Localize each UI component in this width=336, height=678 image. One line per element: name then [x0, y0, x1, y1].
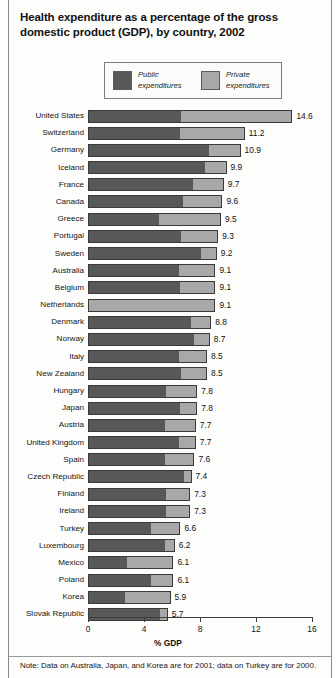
stacked-bar[interactable] [88, 402, 197, 415]
bar-segment-public [89, 454, 165, 465]
country-label: Korea [0, 590, 84, 604]
bar-value-label: 6.1 [177, 574, 189, 588]
bar-segment-public [89, 609, 160, 620]
stacked-bar[interactable] [88, 539, 175, 552]
bar-segment-private [180, 128, 244, 139]
bar-value-label: 9.6 [226, 195, 238, 209]
bar-segment-private [125, 592, 169, 603]
bar-value-label: 8.5 [211, 367, 223, 381]
chart-row: Poland6.1 [0, 572, 336, 589]
stacked-bar[interactable] [88, 144, 241, 157]
country-label: Greece [0, 212, 84, 226]
chart-row: United States14.6 [0, 108, 336, 125]
stacked-bar[interactable] [88, 161, 227, 174]
country-label: Belgium [0, 281, 84, 295]
stacked-bar[interactable] [88, 213, 221, 226]
bar-value-label: 14.6 [296, 110, 312, 124]
country-label: Slovak Republic [0, 607, 84, 621]
stacked-bar[interactable] [88, 556, 173, 569]
bar-value-label: 7.3 [194, 488, 206, 502]
bar-segment-public [89, 403, 180, 414]
stacked-bar[interactable] [88, 230, 218, 243]
country-label: Luxembourg [0, 539, 84, 553]
x-axis-tick-label: 0 [86, 624, 91, 634]
stacked-bar[interactable] [88, 453, 194, 466]
bar-value-label: 7.7 [200, 436, 212, 450]
bar-segment-private [165, 420, 195, 431]
chart-legend: Public expenditures Private expenditures [104, 62, 282, 99]
country-label: United Kingdom [0, 436, 84, 450]
bar-value-label: 5.9 [175, 591, 187, 605]
bar-segment-public [89, 282, 180, 293]
legend-item-public: Public expenditures [105, 70, 193, 91]
bar-value-label: 9.2 [221, 247, 233, 261]
bar-value-label: 9.3 [222, 230, 234, 244]
chart-row: New Zealand8.5 [0, 366, 336, 383]
stacked-bar[interactable] [88, 247, 217, 260]
chart-row: Hungary7.8 [0, 383, 336, 400]
stacked-bar[interactable] [88, 178, 224, 191]
chart-row: Greece9.5 [0, 211, 336, 228]
x-axis: 0481216 [88, 617, 312, 618]
bar-value-label: 7.3 [194, 505, 206, 519]
bar-segment-public [89, 265, 179, 276]
country-label: Netherlands [0, 298, 84, 312]
stacked-bar[interactable] [88, 281, 215, 294]
stacked-bar[interactable] [88, 264, 215, 277]
bar-value-label: 6.2 [179, 539, 191, 553]
bar-value-label: 5.7 [172, 608, 184, 622]
bar-value-label: 7.4 [196, 470, 208, 484]
x-axis-tick [312, 617, 313, 622]
stacked-bar[interactable] [88, 195, 222, 208]
bar-segment-private [151, 523, 180, 534]
stacked-bar[interactable] [88, 470, 192, 483]
bar-segment-private [193, 179, 223, 190]
stacked-bar[interactable] [88, 385, 197, 398]
bar-segment-private [179, 351, 206, 362]
bar-segment-private [151, 575, 173, 586]
country-label: Hungary [0, 384, 84, 398]
note-separator [9, 656, 331, 657]
stacked-bar[interactable] [88, 505, 190, 518]
stacked-bar[interactable] [88, 333, 210, 346]
country-label: Sweden [0, 247, 84, 261]
public-color-swatch [113, 71, 132, 90]
chart-title: Health expenditure as a percentage of th… [20, 10, 316, 41]
chart-note: Note: Data on Australia, Japan, and Kore… [20, 661, 330, 671]
chart-row: Finland7.3 [0, 486, 336, 503]
bar-segment-private [191, 317, 210, 328]
bar-segment-private [181, 368, 206, 379]
chart-row: Italy8.5 [0, 349, 336, 366]
stacked-bar[interactable] [88, 574, 173, 587]
country-label: Germany [0, 143, 84, 157]
x-axis-tick-label: 4 [142, 624, 147, 634]
bar-segment-public [89, 540, 165, 551]
stacked-bar[interactable] [88, 522, 180, 535]
stacked-bar[interactable] [88, 127, 245, 140]
bar-segment-private [179, 437, 195, 448]
stacked-bar[interactable] [88, 299, 215, 312]
stacked-bar[interactable] [88, 591, 171, 604]
stacked-bar[interactable] [88, 608, 168, 621]
stacked-bar[interactable] [88, 419, 196, 432]
x-axis-tick-label: 16 [307, 624, 316, 634]
stacked-bar[interactable] [88, 488, 190, 501]
stacked-bar[interactable] [88, 367, 207, 380]
bar-segment-public [89, 317, 191, 328]
stacked-bar[interactable] [88, 316, 211, 329]
bar-value-label: 9.5 [225, 213, 237, 227]
x-axis-tick [256, 617, 257, 622]
stacked-bar[interactable] [88, 110, 292, 123]
bar-segment-private [194, 334, 209, 345]
stacked-bar[interactable] [88, 350, 207, 363]
bar-value-label: 9.1 [219, 264, 231, 278]
bar-segment-private [89, 300, 214, 311]
stacked-bar[interactable] [88, 436, 196, 449]
chart-row: Canada9.6 [0, 194, 336, 211]
bar-segment-private [201, 248, 216, 259]
bar-segment-private [180, 403, 196, 414]
chart-row: Switzerland11.2 [0, 125, 336, 142]
country-label: Ireland [0, 504, 84, 518]
legend-label-private: Private expenditures [226, 70, 269, 91]
bar-segment-private [184, 471, 190, 482]
